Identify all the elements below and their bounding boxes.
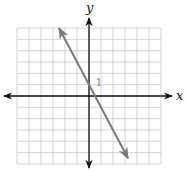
x-axis-label: x <box>176 88 184 103</box>
y-axis-label: y <box>85 0 94 15</box>
y-tick-label-1: 1 <box>96 76 103 89</box>
series-group <box>59 28 128 158</box>
series-line <box>59 28 128 158</box>
coordinate-plane: x y 1 <box>0 0 188 172</box>
